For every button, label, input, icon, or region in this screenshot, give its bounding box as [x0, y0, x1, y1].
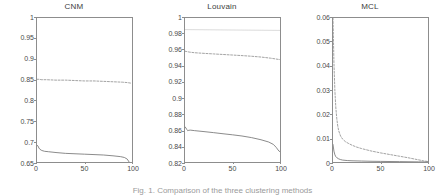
- series-upper-dashed: [333, 18, 428, 162]
- chart-panel-cnm: CNM 0.650.70.750.80.850.90.951 050100: [0, 0, 148, 196]
- panel-title: CNM: [0, 2, 148, 11]
- x-tick-mark: [381, 162, 382, 164]
- panel-title: MCL: [296, 2, 444, 11]
- y-tick-label: 0.03: [296, 87, 330, 94]
- y-tick-label: 1: [0, 14, 34, 21]
- series-middle-dashed: [185, 51, 280, 59]
- x-axis-ticks: 050100: [332, 164, 429, 176]
- x-tick-mark: [85, 162, 86, 164]
- x-tick-mark: [233, 162, 234, 164]
- x-tick-label: 0: [34, 165, 38, 172]
- y-tick-label: 0: [296, 160, 330, 167]
- x-tick-mark: [280, 162, 281, 164]
- y-axis-ticks: 0.820.840.860.880.90.920.940.960.981: [148, 17, 182, 163]
- x-tick-label: 100: [127, 165, 139, 172]
- y-tick-label: 0.88: [148, 111, 182, 118]
- y-tick-label: 0.96: [148, 46, 182, 53]
- figure-caption: Fig. 1. Comparison of the three clusteri…: [0, 186, 445, 196]
- x-tick-label: 0: [182, 165, 186, 172]
- y-tick-label: 0.02: [296, 111, 330, 118]
- figure-container: CNM 0.650.70.750.80.850.90.951 050100 Lo…: [0, 0, 445, 196]
- y-tick-label: 0.92: [148, 78, 182, 85]
- x-tick-label: 100: [423, 165, 435, 172]
- plot-area: [36, 17, 133, 163]
- y-tick-label: 0.82: [148, 160, 182, 167]
- plot-area: [332, 17, 429, 163]
- y-tick-label: 1: [148, 14, 182, 21]
- x-tick-label: 100: [275, 165, 287, 172]
- y-tick-label: 0.65: [0, 160, 34, 167]
- y-tick-label: 0.9: [148, 95, 182, 102]
- y-tick-label: 0.85: [0, 76, 34, 83]
- y-axis-ticks: 00.010.020.030.040.050.06: [296, 17, 330, 163]
- x-tick-mark: [132, 162, 133, 164]
- y-tick-label: 0.75: [0, 118, 34, 125]
- x-tick-label: 50: [377, 165, 385, 172]
- chart-panel-louvain: Louvain 0.820.840.860.880.90.920.940.960…: [148, 0, 296, 196]
- plot-lines: [185, 18, 280, 162]
- x-tick-label: 50: [81, 165, 89, 172]
- y-tick-label: 0.05: [296, 38, 330, 45]
- y-tick-label: 0.7: [0, 139, 34, 146]
- y-tick-label: 0.04: [296, 62, 330, 69]
- y-tick-label: 0.94: [148, 62, 182, 69]
- series-lower-solid: [37, 145, 132, 162]
- y-tick-label: 0.9: [0, 55, 34, 62]
- y-tick-label: 0.98: [148, 30, 182, 37]
- x-tick-label: 0: [330, 165, 334, 172]
- plot-lines: [37, 18, 132, 162]
- x-axis-ticks: 050100: [36, 164, 133, 176]
- y-tick-label: 0.86: [148, 127, 182, 134]
- panel-title: Louvain: [148, 2, 296, 11]
- x-tick-mark: [428, 162, 429, 164]
- x-tick-mark: [332, 162, 333, 164]
- y-tick-label: 0.84: [148, 143, 182, 150]
- series-top-faint: [185, 30, 280, 31]
- plot-area: [184, 17, 281, 163]
- y-tick-label: 0.95: [0, 34, 34, 41]
- series-upper-dashed: [37, 79, 132, 83]
- x-tick-label: 50: [229, 165, 237, 172]
- chart-panel-mcl: MCL 00.010.020.030.040.050.06 050100: [296, 0, 444, 196]
- plot-lines: [333, 18, 428, 162]
- x-axis-ticks: 050100: [184, 164, 281, 176]
- y-axis-ticks: 0.650.70.750.80.850.90.951: [0, 17, 34, 163]
- y-tick-label: 0.01: [296, 135, 330, 142]
- x-tick-mark: [36, 162, 37, 164]
- series-lower-solid: [185, 127, 280, 152]
- y-tick-label: 0.8: [0, 97, 34, 104]
- y-tick-label: 0.06: [296, 14, 330, 21]
- x-tick-mark: [184, 162, 185, 164]
